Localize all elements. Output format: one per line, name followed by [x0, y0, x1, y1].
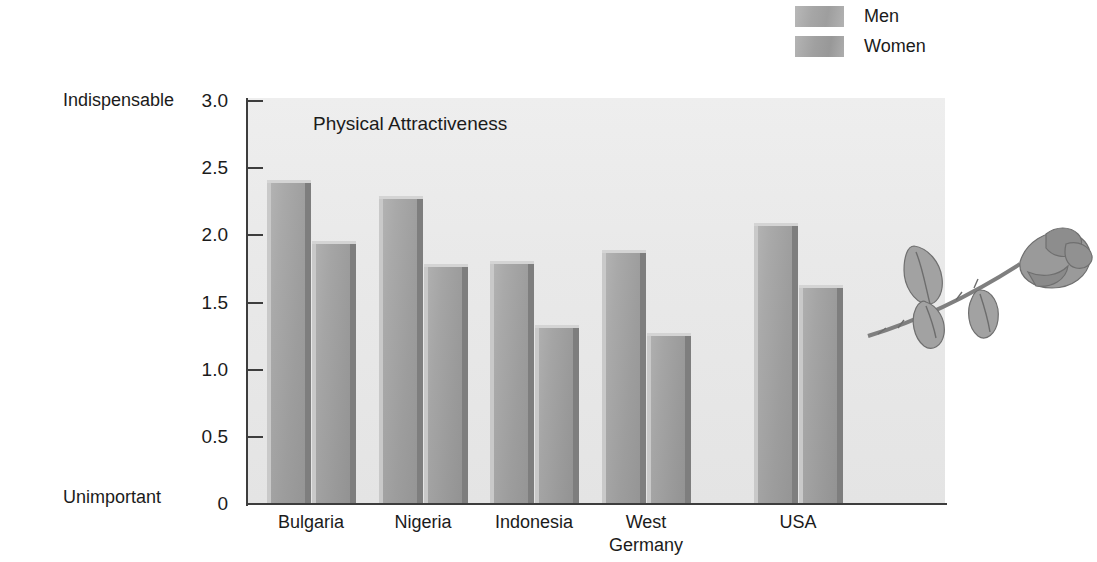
bar-cap	[490, 261, 534, 264]
y-tick-mark	[248, 302, 263, 304]
bar-highlight	[647, 333, 651, 504]
y-tick-mark	[248, 100, 263, 102]
bar-indonesia-women	[535, 325, 579, 504]
bar-highlight	[754, 223, 758, 504]
bar-cap	[379, 196, 423, 199]
legend-swatch-women-icon	[795, 36, 844, 57]
y-axis-top-label: Indispensable	[63, 91, 174, 109]
chart-legend: Men Women	[795, 4, 975, 64]
bar-cap	[799, 285, 843, 288]
y-axis-tick-labels: 3.02.52.01.51.00.50	[180, 0, 228, 562]
bar-shadow	[573, 325, 579, 504]
bar-cap	[535, 325, 579, 328]
y-tick-mark	[248, 167, 263, 169]
bar-bulgaria-women	[312, 241, 356, 504]
y-tick-label: 3.0	[202, 91, 228, 110]
x-tick-label: USA	[718, 511, 878, 534]
bar-highlight	[799, 285, 803, 504]
bar-usa-women	[799, 285, 843, 504]
y-tick-mark	[248, 234, 263, 236]
bar-cap	[602, 250, 646, 253]
legend-swatch-men-icon	[795, 6, 844, 27]
bar-shadow	[792, 223, 798, 504]
y-tick-label: 0.5	[202, 427, 228, 446]
x-axis-line	[246, 503, 947, 505]
legend-item-women: Women	[795, 34, 975, 58]
bar-highlight	[535, 325, 539, 504]
bar-cap	[267, 180, 311, 183]
y-tick-label: 1.5	[202, 293, 228, 312]
rose-illustration-icon	[860, 216, 1097, 351]
bar-shadow	[417, 196, 423, 504]
y-tick-label: 1.0	[202, 360, 228, 379]
bar-cap	[312, 241, 356, 244]
bar-shadow	[640, 250, 646, 504]
bar-shadow	[685, 333, 691, 504]
bar-west-germany-women	[647, 333, 691, 504]
y-tick-mark	[248, 503, 263, 505]
legend-item-men: Men	[795, 4, 975, 28]
bar-cap	[424, 264, 468, 267]
y-axis-bottom-label: Unimportant	[63, 488, 161, 506]
bar-highlight	[267, 180, 271, 504]
y-tick-label: 2.5	[202, 158, 228, 177]
bar-bulgaria-men	[267, 180, 311, 504]
bar-highlight	[424, 264, 428, 504]
bar-shadow	[837, 285, 843, 504]
x-tick-label: West Germany	[566, 511, 726, 557]
bar-shadow	[462, 264, 468, 504]
bar-nigeria-women	[424, 264, 468, 504]
bar-shadow	[305, 180, 311, 504]
legend-label-men: Men	[864, 7, 899, 25]
bar-cap	[754, 223, 798, 226]
chart-title: Physical Attractiveness	[313, 113, 507, 135]
legend-label-women: Women	[864, 37, 926, 55]
bar-indonesia-men	[490, 261, 534, 504]
y-tick-mark	[248, 369, 263, 371]
bar-shadow	[350, 241, 356, 504]
bar-shadow	[528, 261, 534, 504]
bar-cap	[647, 333, 691, 336]
y-tick-mark	[248, 436, 263, 438]
y-tick-label: 0	[217, 494, 228, 513]
bar-highlight	[379, 196, 383, 504]
bar-west-germany-men	[602, 250, 646, 504]
bar-nigeria-men	[379, 196, 423, 504]
bar-highlight	[312, 241, 316, 504]
plot-area	[248, 98, 945, 504]
bar-highlight	[602, 250, 606, 504]
bar-highlight	[490, 261, 494, 504]
bar-usa-men	[754, 223, 798, 504]
y-tick-label: 2.0	[202, 225, 228, 244]
